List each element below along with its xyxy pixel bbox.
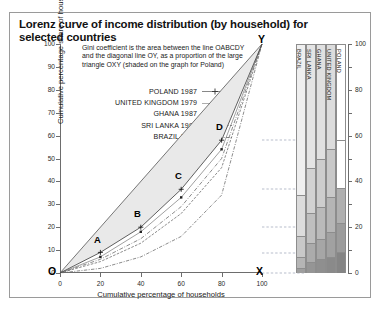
- x-tick-40: 40: [128, 280, 154, 287]
- bar-column-poland[interactable]: POLAND: [336, 44, 346, 273]
- bar-tick-60: 60: [355, 132, 362, 139]
- quintile-bar-chart: BRAZIL SRI LANKA GHANA: [296, 44, 346, 273]
- x-tick-60: 60: [168, 280, 194, 287]
- point-label-C: C: [175, 170, 182, 181]
- y-tick-10: 10: [36, 246, 55, 253]
- corner-label-Y: Y: [258, 33, 265, 45]
- bar-tick-100: 100: [355, 40, 366, 47]
- bar-tick-80: 80: [355, 86, 362, 93]
- y-tick-40: 40: [36, 177, 55, 184]
- y-tick-80: 80: [36, 86, 55, 93]
- bar-label-ghana: GHANA: [316, 46, 322, 278]
- y-tick-90: 90: [36, 63, 55, 70]
- corner-label-X: X: [256, 265, 263, 277]
- bar-column-brazil[interactable]: BRAZIL: [296, 44, 306, 273]
- lorenz-curves: [60, 44, 262, 273]
- x-tick-0: 0: [47, 280, 73, 287]
- x-tick-100: 100: [249, 280, 275, 287]
- y-tick-50: 50: [36, 155, 55, 162]
- bar-tick-20: 20: [355, 223, 362, 230]
- bar-column-united-kingdom[interactable]: UNITED KINGDOM: [326, 44, 336, 273]
- bar-label-united-kingdom: UNITED KINGDOM: [326, 46, 332, 278]
- x-tick-20: 20: [87, 280, 113, 287]
- y-tick-60: 60: [36, 132, 55, 139]
- point-label-B: B: [134, 208, 141, 219]
- bar-column-sri-lanka[interactable]: SRI LANKA: [306, 44, 316, 273]
- point-label-D: D: [216, 121, 223, 132]
- bar-label-poland: POLAND: [336, 46, 342, 278]
- y-tick-30: 30: [36, 200, 55, 207]
- bar-tick-0: 0: [355, 269, 359, 276]
- y-tick-20: 20: [36, 223, 55, 230]
- bar-label-brazil: BRAZIL: [296, 46, 302, 278]
- lorenz-plot: Cumulative percentage share of household…: [60, 44, 262, 273]
- point-label-A: A: [94, 234, 101, 245]
- y-tick-100: 100: [36, 40, 55, 47]
- corner-label-O: O: [48, 265, 56, 277]
- x-tick-80: 80: [209, 280, 235, 287]
- bar-column-ghana[interactable]: GHANA: [316, 44, 326, 273]
- bar-tick-40: 40: [355, 177, 362, 184]
- y-tick-70: 70: [36, 109, 55, 116]
- x-axis-label: Cumulative percentage of households: [60, 290, 262, 299]
- bar-label-sri-lanka: SRI LANKA: [306, 46, 312, 278]
